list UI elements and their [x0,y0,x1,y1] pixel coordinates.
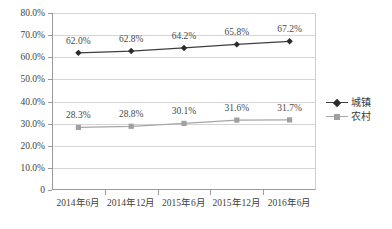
y-axis-tick-label: 40.0% [0,97,45,107]
y-axis: 80.0%70.0%60.0%50.0%40.0%30.0%20.0%10.0%… [0,0,48,229]
y-axis-tick-label: 60.0% [0,52,45,62]
y-axis-tick-label: 30.0% [0,119,45,129]
data-point[interactable] [287,117,292,122]
y-axis-tick [48,190,52,191]
data-point-label: 28.3% [54,110,102,121]
data-point[interactable] [76,125,81,130]
data-point[interactable] [234,41,240,47]
y-axis-tick-label: 50.0% [0,74,45,84]
y-axis-tick-label: 80.0% [0,8,45,18]
y-axis-tick-label: 0 [0,185,45,195]
data-point-label: 64.2% [160,31,208,42]
legend-label-urban: 城镇 [348,97,371,109]
x-axis-tick-label: 2016年6月 [263,197,316,209]
data-point[interactable] [75,50,81,56]
x-axis-tick-label: 2015年12月 [210,197,263,209]
line-chart: 80.0%70.0%60.0%50.0%40.0%30.0%20.0%10.0%… [0,0,392,229]
x-axis-tick-label: 2014年6月 [52,197,105,209]
x-axis-tick [210,190,211,195]
y-axis-tick-label: 10.0% [0,163,45,173]
legend-label-rural: 农村 [348,111,371,123]
data-point[interactable] [234,117,239,122]
x-axis: 2014年6月2014年12月2015年6月2015年12月2016年6月 [52,197,316,217]
x-axis-tick-label: 2015年6月 [158,197,211,209]
data-point-label: 28.8% [107,109,155,120]
data-point[interactable] [181,121,186,126]
x-axis-tick [158,190,159,195]
data-point-label: 31.6% [213,103,261,114]
square-marker-icon [326,111,348,123]
data-point-label: 62.8% [107,34,155,45]
data-point-label: 62.0% [54,36,102,47]
y-axis-tick-label: 70.0% [0,30,45,40]
data-point[interactable] [128,48,134,54]
legend: 城镇 农村 [326,96,388,124]
legend-item-rural[interactable]: 农村 [326,110,388,124]
x-axis-tick [263,190,264,195]
data-point-label: 31.7% [266,103,314,114]
x-axis-tick [105,190,106,195]
data-point[interactable] [129,124,134,129]
y-axis-tick-label: 20.0% [0,141,45,151]
data-point-label: 65.8% [213,27,261,38]
data-point-label: 67.2% [266,24,314,35]
data-point[interactable] [181,45,187,51]
data-point-label: 30.1% [160,106,208,117]
diamond-marker-icon [326,97,348,109]
data-point[interactable] [286,38,292,44]
x-axis-tick-label: 2014年12月 [105,197,158,209]
legend-item-urban[interactable]: 城镇 [326,96,388,110]
